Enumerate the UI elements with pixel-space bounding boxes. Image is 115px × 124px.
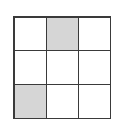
grid-cell-r1-c1 <box>46 50 79 85</box>
grid-cell-r1-c0 <box>14 50 47 85</box>
grid-cell-r2-c1 <box>46 84 79 119</box>
grid-cell-r2-c2 <box>78 84 111 119</box>
grid-cell-r1-c2 <box>78 50 111 85</box>
grid-cell-r0-c1-shaded <box>46 17 79 52</box>
grid-cell-r0-c0 <box>14 17 47 52</box>
grid-cell-r2-c0-shaded <box>14 84 47 119</box>
grid-cell-r0-c2 <box>78 17 111 52</box>
grid-3x3 <box>13 16 111 119</box>
